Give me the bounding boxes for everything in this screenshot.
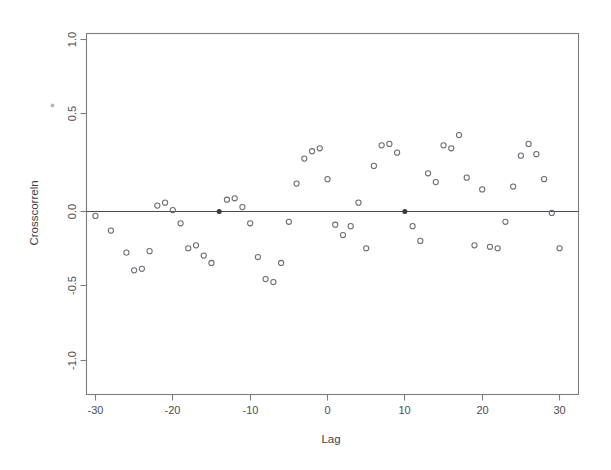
plot-canvas: 1.0 0.5 0.0 -0.5 -1.0 -30 -20 -10 0 10 2…	[0, 0, 611, 470]
x-tick-label-30: 30	[553, 404, 565, 416]
crosscorrelation-scatter-plot: 1.0 0.5 0.0 -0.5 -1.0 -30 -20 -10 0 10 2…	[0, 0, 611, 470]
plot-background	[0, 0, 611, 470]
x-tick-label--30: -30	[88, 404, 104, 416]
x-tick-label--20: -20	[165, 404, 181, 416]
y-tick-label-0.0: 0.0	[66, 204, 78, 219]
x-tick-label--10: -10	[243, 404, 259, 416]
y-tick-label--1.0: -1.0	[66, 351, 78, 370]
y-axis-title: Crosscorreln	[28, 180, 40, 245]
data-point	[217, 210, 221, 214]
y-tick-label-1.0: 1.0	[66, 32, 78, 47]
x-tick-label-20: 20	[476, 404, 488, 416]
y-tick-label-0.5: 0.5	[66, 106, 78, 121]
image-artifact-speck	[51, 104, 55, 108]
data-point	[403, 210, 407, 214]
x-tick-label-10: 10	[398, 404, 410, 416]
y-tick-label--0.5: -0.5	[66, 276, 78, 295]
x-tick-label-0: 0	[324, 404, 330, 416]
x-axis-title: Lag	[321, 433, 340, 445]
